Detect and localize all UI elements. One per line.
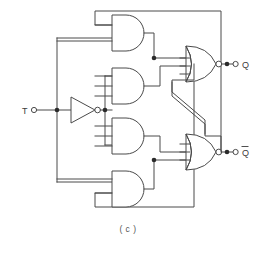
schematic-canvas: Q Q T ( c ) <box>0 0 257 254</box>
and-gate-4-body <box>112 171 144 207</box>
and-gate-1-output-wire <box>144 33 186 58</box>
junction-inverter-out <box>103 108 108 113</box>
and-gate-3-body <box>112 118 144 154</box>
junction-q-rail <box>225 62 230 67</box>
t-input-terminal-icon <box>31 107 36 112</box>
junction-and4-output <box>152 158 157 163</box>
q-output-terminal-icon <box>233 61 238 66</box>
junction-and1-output <box>152 56 157 61</box>
and-gate-1-body <box>112 15 144 51</box>
qnot-output-terminal-icon <box>233 149 238 154</box>
junction-qnot-rail <box>225 150 230 155</box>
inverter-body <box>71 97 95 123</box>
and-gate-4-output-wire <box>144 160 186 189</box>
qnot-output-label: Q <box>242 148 249 158</box>
inverter-bubble-icon <box>95 107 101 113</box>
q-output-label: Q <box>242 60 249 70</box>
nor-gate-1-bubble-icon <box>216 61 222 67</box>
t-input-label: T <box>22 106 28 116</box>
figure-caption: ( c ) <box>119 224 136 234</box>
nor-gate-1-body <box>186 46 216 82</box>
junction-t-bus <box>55 108 60 113</box>
and-gate-2-output-wire <box>144 66 186 86</box>
logic-diagram-figure: Q Q T ( c ) <box>0 0 257 254</box>
and-gate-2-body <box>112 68 144 104</box>
